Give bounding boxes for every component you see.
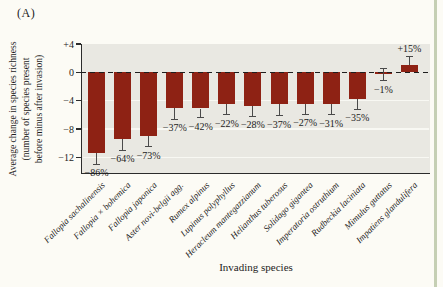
bar-rudbeckia-laciniata <box>349 72 366 98</box>
bar-fallopia-bohemica <box>114 72 131 139</box>
y-axis-tick <box>76 128 81 129</box>
error-bar <box>148 136 149 147</box>
percent-change-label: −22% <box>215 118 239 129</box>
error-bar-cap <box>406 56 413 57</box>
error-bar-cap <box>197 117 204 118</box>
page-edge-strip <box>434 0 437 287</box>
error-bar <box>409 57 410 65</box>
error-bar-cap <box>171 119 178 120</box>
percent-change-label: −42% <box>189 121 213 132</box>
error-bar-cap <box>328 114 335 115</box>
y-axis-tick-label: 0 <box>48 67 74 78</box>
error-bar <box>357 99 358 110</box>
y-axis-tick-label: −8 <box>48 124 74 135</box>
y-axis-tick <box>76 43 81 44</box>
error-bar-cap <box>223 114 230 115</box>
percent-change-label: +15% <box>397 43 421 54</box>
percent-change-label: −37% <box>267 119 291 130</box>
bar-solidago-gigantea <box>297 72 314 103</box>
bar-aster-novi-belgii-agg- <box>166 72 183 107</box>
error-bar-cap <box>145 146 152 147</box>
error-bar <box>122 139 123 150</box>
percent-change-label: −31% <box>319 118 343 129</box>
bar-fallopia-sachalinensis <box>88 72 105 153</box>
error-bar <box>174 108 175 119</box>
error-bar <box>226 104 227 115</box>
percent-change-label: −37% <box>163 122 187 133</box>
percent-change-label: −1% <box>374 84 393 95</box>
y-axis-title-line-1: Average change in species richness <box>6 14 19 204</box>
error-bar-cap <box>354 109 361 110</box>
percent-change-label: −73% <box>137 150 161 161</box>
y-axis-title-line-3: before minus after invasion) <box>32 14 45 204</box>
y-axis-title: Average change in species richness (numb… <box>6 14 46 204</box>
error-bar-cap <box>276 115 283 116</box>
error-bar <box>96 153 97 164</box>
percent-change-label: −86% <box>85 167 109 178</box>
error-bar-cap <box>249 116 256 117</box>
percent-change-label: −27% <box>293 117 317 128</box>
y-axis-tick-label: −4 <box>48 95 74 106</box>
y-axis-tick <box>76 157 81 158</box>
percent-change-label: −35% <box>345 112 369 123</box>
error-bar-cap <box>302 114 309 115</box>
error-bar-cap <box>380 68 387 69</box>
bar-helianthus-tuberosus <box>271 72 288 104</box>
error-bar <box>331 104 332 115</box>
y-axis-tick-label: −12 <box>48 152 74 163</box>
bar-heracleum-mantegazzianum <box>244 72 261 105</box>
y-axis-tick <box>76 100 81 101</box>
error-bar-cap <box>380 80 387 81</box>
error-bar-cap <box>93 164 100 165</box>
gridline <box>83 157 429 159</box>
x-axis-title: Invading species <box>219 261 293 273</box>
zero-dashed-line <box>81 72 429 73</box>
error-bar <box>279 104 280 115</box>
y-axis-title-line-2: (number of species present <box>19 14 32 204</box>
bar-fallopia-japonica <box>140 72 157 136</box>
bar-lupinus-polyphyllus <box>218 72 235 104</box>
error-bar <box>252 106 253 117</box>
y-axis-tick-label: +4 <box>48 39 74 50</box>
percent-change-label: −28% <box>241 119 265 130</box>
bar-imperatoria-ostruthium <box>323 72 340 103</box>
error-bar <box>305 104 306 115</box>
percent-change-label: −64% <box>111 153 135 164</box>
error-bar-cap <box>119 150 126 151</box>
figure-panel-a: (A) Average change in species richness (… <box>0 0 443 287</box>
bar-rumex-alpinus <box>192 72 209 108</box>
